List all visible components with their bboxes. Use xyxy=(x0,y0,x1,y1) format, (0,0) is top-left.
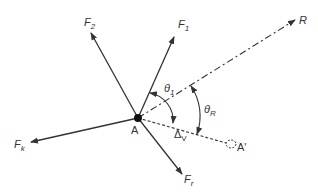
label-f1: F1 xyxy=(178,18,189,33)
vector-r xyxy=(138,20,295,118)
force-diagram: F2 F1 R Fk Fr θ1 θR A A' ΔV xyxy=(0,0,318,196)
angle-thetaR-arc xyxy=(191,86,200,134)
label-r: R xyxy=(299,14,307,26)
vector-fr xyxy=(138,118,182,174)
label-fr: Fr xyxy=(184,173,194,188)
label-theta1: θ1 xyxy=(164,82,174,97)
point-a-dot xyxy=(134,114,142,122)
label-a: A xyxy=(131,124,139,136)
label-thetaR: θR xyxy=(204,103,216,118)
label-delta-v: ΔV xyxy=(174,128,187,143)
vector-fk xyxy=(31,118,138,142)
point-a-prime-marker xyxy=(226,140,236,148)
label-fk: Fk xyxy=(14,138,26,153)
vector-f2 xyxy=(91,33,138,118)
label-f2: F2 xyxy=(84,16,96,31)
label-a-prime: A' xyxy=(237,141,246,153)
